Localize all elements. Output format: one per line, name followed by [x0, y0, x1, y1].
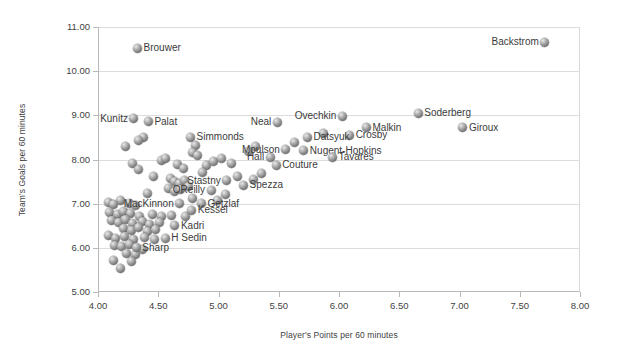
- y-tick-label: 6.00: [50, 242, 90, 253]
- x-tick-mark: [98, 292, 99, 297]
- data-point-labeled[interactable]: [540, 38, 549, 47]
- scatter-chart: Team's Goals per 60 minutes Player's Poi…: [0, 0, 626, 359]
- data-point-labeled[interactable]: [458, 123, 467, 132]
- point-label: Spezza: [250, 179, 283, 190]
- data-point[interactable]: [167, 211, 176, 220]
- data-point-labeled[interactable]: [170, 221, 179, 230]
- y-tick-label: 7.00: [50, 198, 90, 209]
- x-tick-mark: [460, 292, 461, 297]
- data-point[interactable]: [161, 154, 170, 163]
- x-tick-mark: [339, 292, 340, 297]
- data-point[interactable]: [134, 165, 143, 174]
- y-tick-label: 9.00: [50, 109, 90, 120]
- x-tick-label: 7.50: [497, 300, 543, 311]
- point-label: Sharp: [142, 242, 169, 253]
- data-point[interactable]: [257, 169, 266, 178]
- data-point-labeled[interactable]: [273, 118, 282, 127]
- data-point-labeled[interactable]: [144, 117, 153, 126]
- data-point-labeled[interactable]: [281, 145, 290, 154]
- data-point[interactable]: [179, 164, 188, 173]
- data-point[interactable]: [116, 264, 125, 273]
- x-tick-label: 8.00: [557, 300, 603, 311]
- point-label: Palat: [154, 116, 177, 127]
- data-point[interactable]: [151, 225, 160, 234]
- point-label: H Sedin: [171, 232, 207, 243]
- point-label: Giroux: [469, 122, 498, 133]
- x-tick-label: 5.00: [196, 300, 242, 311]
- point-label: Kessel: [198, 204, 228, 215]
- y-tick-label: 5.00: [50, 286, 90, 297]
- y-tick-label: 11.00: [50, 21, 90, 32]
- x-tick-label: 4.50: [135, 300, 181, 311]
- point-label: Brouwer: [144, 42, 181, 53]
- data-point[interactable]: [109, 256, 118, 265]
- point-label: Kadri: [181, 220, 204, 231]
- data-point-labeled[interactable]: [239, 181, 248, 190]
- point-label: Simmonds: [197, 131, 244, 142]
- x-tick-mark: [520, 292, 521, 297]
- x-tick-label: 6.50: [376, 300, 422, 311]
- data-point[interactable]: [217, 154, 226, 163]
- x-tick-label: 4.00: [75, 300, 121, 311]
- data-point[interactable]: [140, 233, 149, 242]
- x-tick-mark: [158, 292, 159, 297]
- data-point-labeled[interactable]: [414, 109, 423, 118]
- x-axis-title: Player's Points per 60 minutes: [98, 330, 580, 340]
- data-point-labeled[interactable]: [338, 112, 347, 121]
- point-label: Soderberg: [424, 107, 471, 118]
- y-axis-title: Team's Goals per 60 minutes: [17, 80, 27, 240]
- data-point-labeled[interactable]: [299, 146, 308, 155]
- x-tick-label: 7.00: [437, 300, 483, 311]
- data-point-labeled[interactable]: [186, 133, 195, 142]
- data-point-labeled[interactable]: [207, 186, 216, 195]
- data-point[interactable]: [127, 257, 136, 266]
- data-point[interactable]: [122, 249, 131, 258]
- y-tick-label: 10.00: [50, 65, 90, 76]
- data-point[interactable]: [227, 159, 236, 168]
- data-point-labeled[interactable]: [222, 176, 231, 185]
- x-tick-mark: [219, 292, 220, 297]
- data-point-labeled[interactable]: [129, 114, 138, 123]
- plot-area: BrouwerBackstromKunitzPalatNealOvechkinS…: [98, 27, 580, 292]
- x-tick-label: 5.50: [256, 300, 302, 311]
- point-label: Datsyuk: [313, 131, 349, 142]
- x-tick-mark: [580, 292, 581, 297]
- x-tick-label: 6.00: [316, 300, 362, 311]
- point-label: Couture: [282, 159, 318, 170]
- data-point-labeled[interactable]: [266, 153, 275, 162]
- data-point[interactable]: [149, 172, 158, 181]
- data-point[interactable]: [290, 138, 299, 147]
- data-point[interactable]: [121, 142, 130, 151]
- data-point[interactable]: [193, 151, 202, 160]
- y-tick-label: 8.00: [50, 154, 90, 165]
- x-tick-mark: [399, 292, 400, 297]
- data-point-labeled[interactable]: [187, 206, 196, 215]
- data-point-labeled[interactable]: [303, 133, 312, 142]
- data-point-labeled[interactable]: [272, 161, 281, 170]
- data-point-labeled[interactable]: [133, 44, 142, 53]
- data-point[interactable]: [233, 172, 242, 181]
- point-label: Crosby: [356, 129, 388, 140]
- data-layer: BrouwerBackstromKunitzPalatNealOvechkinS…: [99, 27, 579, 291]
- data-point[interactable]: [134, 136, 143, 145]
- data-point-labeled[interactable]: [328, 153, 337, 162]
- data-point[interactable]: [134, 223, 143, 232]
- point-label: Tavares: [339, 151, 374, 162]
- data-point-labeled[interactable]: [175, 199, 184, 208]
- data-point[interactable]: [148, 210, 157, 219]
- x-tick-mark: [279, 292, 280, 297]
